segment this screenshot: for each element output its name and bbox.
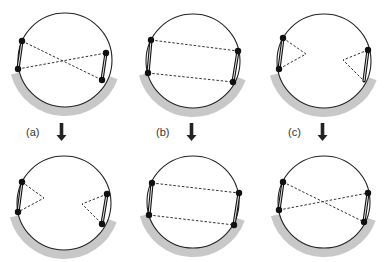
node-dot <box>145 70 151 76</box>
node-dot <box>280 179 286 185</box>
loop-exchange-diagram <box>0 0 384 262</box>
node-dot <box>99 77 105 83</box>
panel-c-before <box>274 14 372 112</box>
node-dot <box>231 222 237 228</box>
down-arrow-head-icon <box>187 135 197 141</box>
node-dot <box>148 37 154 43</box>
panel-label-a: (a) <box>26 126 39 138</box>
node-dot <box>103 50 109 56</box>
panel-c-after <box>275 156 371 253</box>
node-dot <box>19 179 25 185</box>
node-dot <box>104 191 110 197</box>
panel-a-before <box>15 13 114 112</box>
node-dot <box>230 79 236 85</box>
down-arrow-head-icon <box>318 135 328 141</box>
node-dot <box>276 66 282 72</box>
down-arrow-head-icon <box>57 135 67 141</box>
node-dot <box>146 212 152 218</box>
node-dot <box>15 209 21 215</box>
circle-outline <box>147 156 239 248</box>
dashed-link <box>152 183 239 193</box>
down-arrow-icon <box>60 123 64 135</box>
node-dot <box>99 221 105 227</box>
circle-outline <box>277 14 371 108</box>
panel-a-after <box>14 156 112 255</box>
node-dot <box>361 219 367 225</box>
double-bar-gap <box>102 194 107 224</box>
node-dot <box>149 180 155 186</box>
circle-outline <box>17 156 111 250</box>
dashed-link <box>151 40 238 51</box>
node-dot <box>365 190 371 196</box>
node-dot <box>365 47 371 53</box>
dashed-link <box>149 215 234 225</box>
dashed-link <box>279 193 368 210</box>
circle-outline <box>278 156 370 248</box>
panels-layer <box>14 13 372 255</box>
node-dot <box>19 38 25 44</box>
down-arrow-icon <box>190 123 194 135</box>
node-dot <box>236 190 242 196</box>
dashed-link <box>148 73 233 82</box>
circle-outline <box>146 14 240 108</box>
node-dot <box>15 66 21 72</box>
arrows-layer <box>57 123 328 141</box>
panel-b-before <box>143 14 241 112</box>
panel-b-after <box>144 156 242 253</box>
panel-label-c: (c) <box>288 126 301 138</box>
panel-label-b: (b) <box>156 126 169 138</box>
down-arrow-icon <box>321 123 325 135</box>
node-dot <box>280 35 286 41</box>
node-dot <box>276 207 282 213</box>
node-dot <box>235 48 241 54</box>
dashed-link <box>18 53 106 69</box>
